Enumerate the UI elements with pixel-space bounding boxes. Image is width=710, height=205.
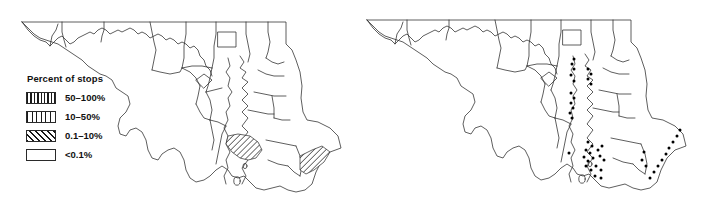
county-line-cecil-kent (611, 56, 629, 62)
location-dot (599, 155, 602, 158)
location-dot (573, 80, 576, 83)
location-dot (590, 169, 593, 172)
legend: Percent of stops 50–100% 10–50% 0.1–10% … (26, 73, 176, 166)
county-line-frederick-carroll (527, 20, 531, 66)
shaded-regions-group (226, 134, 330, 174)
legend-label-lt-01: <0.1% (65, 149, 92, 161)
location-dot (573, 68, 576, 71)
empty-swatch-icon (26, 149, 56, 161)
location-dot (585, 149, 588, 152)
county-line-qa-talbot (599, 90, 631, 94)
location-dot (600, 169, 603, 172)
county-line-frederick-carroll (182, 22, 186, 68)
county-line-kent-queenannes (258, 70, 284, 76)
location-dot (590, 83, 593, 86)
location-dot (653, 171, 656, 174)
location-dot (679, 129, 682, 132)
legend-label-50-100: 50–100% (65, 92, 105, 104)
county-line-montgomery-howard (527, 66, 545, 84)
county-line-carroll-baltimore (212, 22, 216, 68)
county-line-howard-anne-arundel (551, 66, 557, 90)
legend-label-01-10: 0.1–10% (65, 130, 103, 142)
county-line-caroline-dorchester (274, 118, 290, 120)
location-dot (649, 177, 652, 180)
county-line-montgomery-pg (541, 84, 545, 102)
county-line-wicomico-somerset (613, 158, 633, 164)
baltimore-city-inset (218, 32, 236, 47)
county-line-washington-frederick (150, 22, 156, 70)
panel-point-location-map (355, 0, 710, 205)
location-dot (569, 112, 572, 115)
location-dot (672, 141, 675, 144)
location-dot (676, 135, 679, 138)
maryland-dot-map-svg (355, 0, 710, 205)
panel-choropleth-map: Percent of stops 50–100% 10–50% 0.1–10% … (0, 0, 355, 205)
county-line-kent-queenannes (603, 68, 629, 74)
legend-item-lt-01: <0.1% (26, 147, 176, 163)
legend-item-01-10: 0.1–10% (26, 128, 176, 144)
patuxent-river (216, 126, 226, 164)
county-line-montgomery-pg (196, 86, 200, 104)
county-line-talbot-dorchester (593, 108, 619, 112)
location-dot (587, 141, 590, 144)
county-line-carroll-baltimore (557, 20, 561, 66)
legend-title: Percent of stops (27, 73, 176, 84)
state-outline (367, 20, 686, 190)
location-dot (665, 153, 668, 156)
county-line-aa-calvert (555, 118, 571, 124)
location-dot (643, 151, 646, 154)
county-line-anne-arundel-howard-2 (206, 88, 222, 92)
county-line-pg-charles (196, 104, 210, 120)
baltimore-city-inset (563, 30, 581, 45)
location-dot (570, 74, 573, 77)
county-line-cecil-kent (266, 58, 284, 64)
county-line-somerset-worcester (633, 164, 645, 174)
county-line-baltimore-harford (591, 20, 595, 60)
location-dot (595, 165, 598, 168)
county-line-washington-frederick (495, 20, 501, 68)
vertical-hatch-swatch-icon (26, 92, 56, 104)
county-line-garrett-allegany (407, 20, 411, 45)
county-line-harford-cecil (266, 22, 270, 58)
location-dot (589, 152, 592, 155)
diagonal-hatch-swatch-icon (26, 130, 56, 142)
dot-locations-group (568, 58, 682, 180)
location-dot (573, 97, 576, 100)
location-dot (603, 159, 606, 162)
county-line-harford-cecil (611, 20, 615, 56)
location-dot (590, 73, 593, 76)
county-line-charles-stmarys (210, 120, 214, 150)
location-dot (592, 157, 595, 160)
county-line-allegany-washington (446, 20, 449, 40)
location-dot (601, 145, 604, 148)
county-line-howard-anne-arundel (206, 68, 212, 92)
shaded-region-southern-maryland (226, 134, 262, 160)
county-line-wicomico-somerset (268, 160, 288, 166)
bay-western-shore (224, 58, 232, 184)
county-line-garrett-allegany (62, 22, 66, 47)
location-dot (600, 177, 603, 180)
county-line-allegany-washington (101, 22, 104, 42)
location-dot (594, 175, 597, 178)
location-dot (568, 152, 571, 155)
location-dot (591, 145, 594, 148)
location-dot (573, 58, 576, 61)
shaded-region-worcester (300, 146, 330, 174)
legend-label-10-50: 10–50% (65, 111, 100, 123)
grid-hatch-swatch-icon (26, 111, 56, 123)
location-dot (597, 149, 600, 152)
county-line-montgomery-howard (182, 68, 200, 86)
location-dot (572, 107, 575, 110)
county-line-somerset-worcester (288, 166, 300, 176)
county-line-aa-calvert (210, 120, 226, 126)
location-dot (587, 160, 590, 163)
location-dot (571, 63, 574, 66)
legend-item-50-100: 50–100% (26, 90, 176, 106)
location-dot (641, 159, 644, 162)
county-line-pg-charles (541, 102, 555, 118)
county-line-charles-stmarys (555, 118, 559, 148)
location-dot (587, 68, 590, 71)
county-line-dorchester-wicomico (611, 138, 641, 144)
location-dot (657, 165, 660, 168)
patuxent-river (561, 124, 571, 162)
